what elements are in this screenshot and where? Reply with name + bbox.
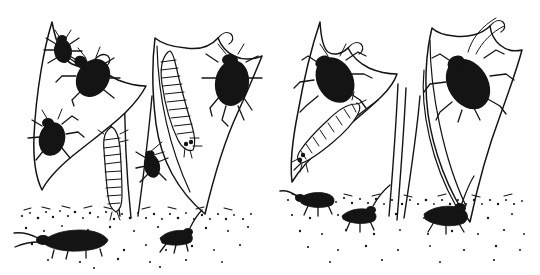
ground-beetle-head <box>36 235 50 245</box>
illustration-root: Insect life stages on plant foliage <box>0 0 540 275</box>
ground-beetle-head <box>454 203 466 213</box>
ground-beetle-body <box>300 193 334 208</box>
larva-head-spot <box>298 158 302 162</box>
ground-beetle-head <box>183 228 193 236</box>
larva-head-spot <box>189 140 193 144</box>
ground-beetle-head <box>366 206 376 214</box>
beetle-head <box>222 54 238 66</box>
larva-head-spot <box>301 153 305 157</box>
beetle-head <box>42 118 54 128</box>
insect-illustration-canvas <box>0 0 540 275</box>
larva-head-spot <box>184 142 188 146</box>
beetle-head <box>57 35 67 43</box>
beetle-head <box>146 151 155 158</box>
